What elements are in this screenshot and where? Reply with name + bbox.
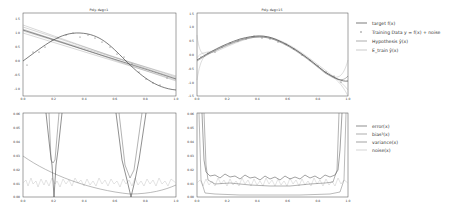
svg-text:-1.0: -1.0: [14, 87, 20, 91]
svg-text:0.03: 0.03: [13, 154, 20, 158]
svg-text:0.6: 0.6: [285, 199, 290, 203]
svg-text:0.5: 0.5: [189, 39, 194, 43]
svg-text:0.04: 0.04: [187, 140, 194, 144]
svg-text:0.04: 0.04: [13, 140, 20, 144]
svg-text:0.05: 0.05: [187, 126, 194, 130]
svg-text:0.01: 0.01: [187, 182, 194, 186]
svg-text:1.0: 1.0: [174, 97, 179, 101]
svg-text:0.5: 0.5: [15, 45, 20, 49]
svg-text:0.8: 0.8: [315, 97, 320, 101]
plot-top-right: Poly. deg=15 1.5 1.0 0.5 0.0 -0.5 -1.0 -…: [188, 8, 350, 101]
x-tick-labels: 0.0 0.2 0.4 0.6 0.8 1.0: [21, 97, 179, 101]
svg-text:variance(x): variance(x): [372, 140, 398, 145]
svg-text:0.02: 0.02: [13, 168, 20, 172]
plot-title: Poly. deg=1: [90, 8, 109, 12]
svg-text:noise(x): noise(x): [372, 148, 391, 153]
svg-text:0.8: 0.8: [143, 97, 148, 101]
svg-text:0.02: 0.02: [187, 168, 194, 172]
legend-marker-points: [360, 31, 361, 32]
svg-text:0.06: 0.06: [13, 112, 20, 116]
y-tick-labels: 1.5 1.0 0.5 0.0 -0.5 -1.0 -1.5: [188, 12, 194, 98]
svg-text:1.0: 1.0: [174, 199, 179, 203]
svg-text:-1.5: -1.5: [188, 94, 194, 98]
svg-text:target f(x): target f(x): [372, 21, 396, 26]
svg-text:0.06: 0.06: [187, 112, 194, 116]
figure: Poly. deg=1 1.5 1.0 0.5 0.0 -: [0, 0, 460, 212]
svg-text:0.0: 0.0: [195, 97, 200, 101]
svg-text:0.2: 0.2: [225, 97, 230, 101]
plot-bottom-right: 0.06 0.05 0.04 0.03 0.02 0.01 0.00 0.0 0…: [187, 112, 350, 203]
svg-text:0.8: 0.8: [143, 199, 148, 203]
svg-text:error(x): error(x): [372, 124, 390, 129]
svg-text:0.4: 0.4: [255, 199, 260, 203]
svg-text:1.0: 1.0: [15, 31, 20, 35]
svg-text:0.2: 0.2: [51, 199, 56, 203]
svg-text:0.8: 0.8: [315, 199, 320, 203]
svg-text:0.0: 0.0: [189, 53, 194, 57]
svg-text:1.5: 1.5: [15, 17, 20, 21]
svg-text:0.6: 0.6: [112, 97, 117, 101]
svg-text:0.05: 0.05: [13, 126, 20, 130]
svg-text:1.0: 1.0: [346, 199, 351, 203]
legend-bottom: error(x) bias²(x) variance(x) noise(x): [356, 124, 398, 153]
axes-frame: [197, 13, 348, 96]
plot-top-left: Poly. deg=1 1.5 1.0 0.5 0.0 -: [14, 8, 178, 101]
svg-text:0.01: 0.01: [13, 182, 20, 186]
svg-text:0.4: 0.4: [82, 199, 87, 203]
svg-text:0.0: 0.0: [21, 199, 26, 203]
y-tick-labels: 1.5 1.0 0.5 0.0 -0.5 -1.0: [14, 17, 20, 91]
x-tick-labels: 0.0 0.2 0.4 0.6 0.8 1.0: [21, 199, 179, 203]
legend-top: target f(x) Training Data y = f(x) + noi…: [356, 21, 441, 54]
svg-text:Training Data y = f(x) + noise: Training Data y = f(x) + noise: [371, 30, 441, 35]
x-tick-labels: 0.0 0.2 0.4 0.6 0.8 1.0: [195, 199, 351, 203]
svg-text:E_train ŷ(x): E_train ŷ(x): [372, 48, 399, 54]
svg-text:-1.0: -1.0: [188, 81, 194, 85]
svg-text:0.2: 0.2: [225, 199, 230, 203]
axes-frame: [197, 113, 348, 197]
y-tick-labels: 0.06 0.05 0.04 0.03 0.02 0.01 0.00: [187, 112, 194, 199]
svg-text:0.4: 0.4: [82, 97, 87, 101]
axes-frame: [23, 113, 176, 197]
y-tick-labels: 0.06 0.05 0.04 0.03 0.02 0.01 0.00: [13, 112, 20, 199]
svg-text:1.0: 1.0: [346, 97, 351, 101]
svg-text:-0.5: -0.5: [188, 67, 194, 71]
svg-text:0.4: 0.4: [255, 97, 260, 101]
plot-bottom-left: 0.06 0.05 0.04 0.03 0.02 0.01 0.00 0.0 0…: [13, 112, 178, 203]
plot-title: Poly. deg=15: [262, 8, 283, 12]
svg-text:1.5: 1.5: [189, 12, 194, 16]
svg-text:0.6: 0.6: [285, 97, 290, 101]
svg-text:0.03: 0.03: [187, 154, 194, 158]
svg-text:0.2: 0.2: [51, 97, 56, 101]
svg-text:0.6: 0.6: [112, 199, 117, 203]
svg-text:1.0: 1.0: [189, 25, 194, 29]
svg-text:0.0: 0.0: [195, 199, 200, 203]
svg-text:Hypothesis ŷ(x): Hypothesis ŷ(x): [372, 39, 408, 44]
svg-text:bias²(x): bias²(x): [372, 132, 390, 137]
svg-text:0.00: 0.00: [187, 195, 194, 199]
svg-text:-0.5: -0.5: [14, 73, 20, 77]
svg-text:0.0: 0.0: [15, 59, 20, 63]
svg-text:0.00: 0.00: [13, 195, 20, 199]
x-tick-labels: 0.0 0.2 0.4 0.6 0.8 1.0: [195, 97, 351, 101]
svg-text:0.0: 0.0: [21, 97, 26, 101]
